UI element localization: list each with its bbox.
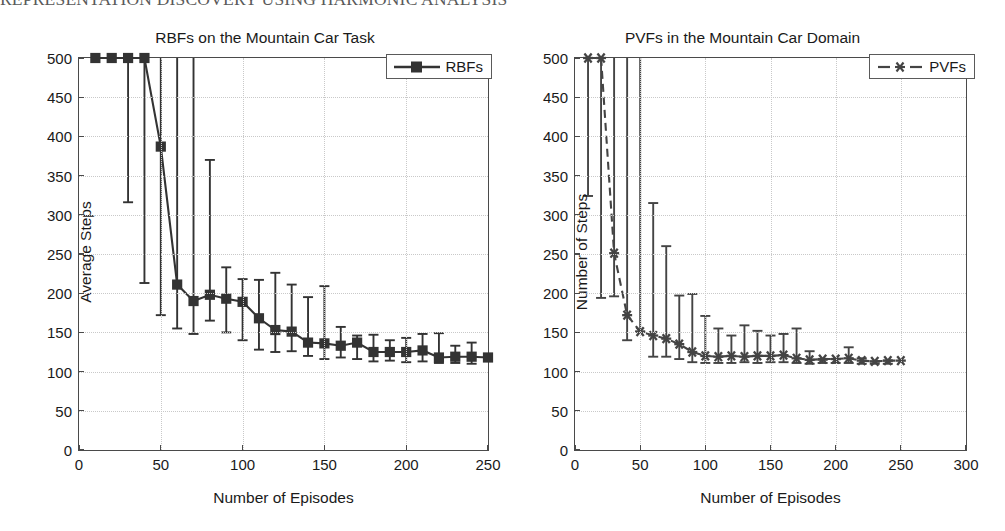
x-tick-label: 0 (571, 456, 579, 473)
x-tick-label: 250 (888, 456, 913, 473)
y-tick-label: 150 (543, 324, 568, 341)
series-rbfs (79, 58, 488, 450)
x-axis-label-right: Number of Episodes (575, 489, 966, 507)
y-tick-label: 300 (543, 206, 568, 223)
figure-pvfs: PVFs in the Mountain Car Domain Number o… (500, 24, 1005, 531)
y-tick-label: 500 (47, 50, 72, 67)
running-header: REPRESENTATION DISCOVERY USING HARMONIC … (0, 0, 1005, 11)
y-tick-label: 500 (543, 50, 568, 67)
legend-label-rbfs: RBFs (446, 58, 484, 75)
x-tick-mark (487, 445, 488, 450)
x-tick-mark (640, 445, 641, 450)
y-tick-label: 250 (543, 246, 568, 263)
x-tick-label: 200 (823, 456, 848, 473)
y-tick-label: 400 (543, 128, 568, 145)
series-line (588, 58, 901, 361)
y-tick-label: 50 (551, 402, 568, 419)
legend-sample-dashed-asterisk-icon (876, 59, 924, 75)
x-tick-mark (770, 445, 771, 450)
x-tick-mark (705, 445, 706, 450)
legend-label-pvfs: PVFs (929, 58, 966, 75)
y-axis-label-right: Number of Steps (573, 132, 591, 372)
x-tick-mark (242, 445, 243, 450)
plot-area-left: Average Steps Number of Episodes 0501001… (78, 57, 489, 451)
y-tick-mark (575, 449, 580, 450)
figure-rbfs: RBFs on the Mountain Car Task Average St… (0, 24, 500, 531)
y-tick-label: 400 (47, 128, 72, 145)
legend-sample-solid-square-icon (393, 59, 441, 75)
legend-left: RBFs (386, 54, 493, 79)
y-tick-label: 250 (47, 246, 72, 263)
y-tick-mark (575, 371, 580, 372)
y-tick-label: 0 (64, 442, 72, 459)
y-tick-mark (79, 214, 84, 215)
y-tick-label: 200 (47, 285, 72, 302)
x-tick-label: 300 (953, 456, 978, 473)
y-tick-label: 100 (47, 363, 72, 380)
y-tick-mark (575, 175, 580, 176)
y-tick-label: 350 (543, 167, 568, 184)
legend-right: PVFs (869, 54, 975, 79)
y-tick-label: 350 (47, 167, 72, 184)
y-tick-label: 0 (560, 442, 568, 459)
y-tick-label: 300 (47, 206, 72, 223)
y-tick-mark (575, 57, 580, 58)
plot-area-right: Number of Steps Number of Episodes 05010… (574, 57, 967, 451)
y-tick-mark (575, 136, 580, 137)
y-tick-label: 450 (543, 89, 568, 106)
y-tick-mark (575, 410, 580, 411)
x-tick-label: 50 (152, 456, 169, 473)
x-tick-mark (900, 445, 901, 450)
y-tick-mark (79, 57, 84, 58)
x-axis-label-left: Number of Episodes (79, 489, 488, 507)
y-tick-label: 50 (55, 402, 72, 419)
y-tick-label: 150 (47, 324, 72, 341)
series-pvfs (575, 58, 966, 450)
x-tick-label: 100 (693, 456, 718, 473)
y-tick-mark (79, 293, 84, 294)
x-tick-label: 0 (75, 456, 83, 473)
y-tick-mark (575, 253, 580, 254)
x-tick-label: 50 (632, 456, 649, 473)
y-tick-mark (79, 371, 84, 372)
x-tick-mark (160, 445, 161, 450)
y-tick-mark (575, 214, 580, 215)
chart-title-left: RBFs on the Mountain Car Task (0, 29, 500, 47)
x-tick-mark (965, 445, 966, 450)
x-tick-label: 150 (758, 456, 783, 473)
y-tick-mark (575, 332, 580, 333)
y-tick-mark (79, 410, 84, 411)
y-tick-label: 200 (543, 285, 568, 302)
x-tick-label: 200 (394, 456, 419, 473)
y-tick-mark (79, 97, 84, 98)
x-tick-mark (835, 445, 836, 450)
chart-title-right: PVFs in the Mountain Car Domain (500, 29, 1005, 47)
y-tick-mark (575, 97, 580, 98)
y-tick-mark (79, 449, 84, 450)
y-tick-mark (79, 253, 84, 254)
x-tick-label: 150 (312, 456, 337, 473)
y-tick-label: 100 (543, 363, 568, 380)
y-tick-mark (79, 332, 84, 333)
x-tick-mark (324, 445, 325, 450)
error-bars (123, 58, 477, 364)
y-tick-mark (575, 293, 580, 294)
y-tick-mark (79, 175, 84, 176)
x-tick-label: 100 (230, 456, 255, 473)
x-tick-label: 250 (475, 456, 500, 473)
x-tick-mark (406, 445, 407, 450)
y-tick-label: 450 (47, 89, 72, 106)
y-tick-mark (79, 136, 84, 137)
